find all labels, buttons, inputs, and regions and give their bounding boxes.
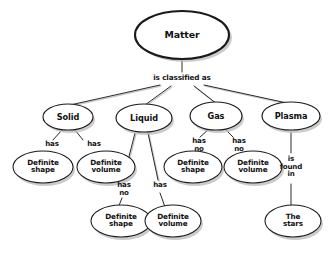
node-gas-definite-volume[interactable] [224, 151, 282, 183]
edge-label-is-classified-as: is classified as [142, 74, 222, 82]
node-liquid[interactable] [116, 104, 172, 132]
node-solid-definite-shape[interactable] [13, 151, 73, 183]
edge-classify-gas [194, 86, 217, 104]
edge-label-plasma-is-found-in: is found in [275, 155, 307, 178]
node-the-stars[interactable] [265, 205, 321, 237]
node-solid[interactable] [43, 104, 93, 130]
node-layer [13, 11, 321, 237]
node-solid-definite-volume[interactable] [77, 151, 135, 183]
edge-label-solid-has-volume: has [76, 140, 112, 148]
edge-classify-plasma [204, 85, 287, 103]
edge-label-liquid-has-volume: has [144, 181, 176, 189]
concept-map-diagram: Matter Solid Liquid Gas Plasma Definite … [0, 0, 334, 253]
edge-label-gas-has-no-shape: has no [183, 137, 215, 152]
node-liquid-definite-volume[interactable] [145, 205, 201, 237]
node-liquid-definite-shape[interactable] [91, 205, 151, 237]
edge-classify-liquid-shadow [146, 87, 172, 106]
edge-classify-solid [70, 85, 160, 105]
diagram-canvas [0, 0, 334, 253]
edge-label-gas-has-no-volume: has no [223, 137, 255, 152]
edge-liquid-volume-upper-shadow [149, 134, 159, 181]
edge-liquid-volume-upper [148, 133, 158, 180]
edge-classify-plasma-shadow [205, 86, 288, 104]
node-gas[interactable] [190, 102, 242, 130]
edge-liquid-volume-lower [160, 193, 165, 207]
edge-label-liquid-has-no-shape: has no [108, 181, 140, 196]
node-gas-definite-shape[interactable] [164, 151, 222, 183]
node-matter[interactable] [135, 11, 229, 59]
node-plasma[interactable] [262, 102, 320, 130]
edge-label-solid-has-shape: has [34, 140, 70, 148]
